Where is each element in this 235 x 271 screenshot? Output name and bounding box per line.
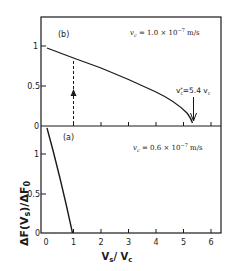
xtick-label-1: 1 xyxy=(71,238,76,247)
xtick-label-4: 4 xyxy=(153,238,158,247)
xtick-label-2: 2 xyxy=(98,238,103,247)
curve-a xyxy=(47,128,73,233)
ytick-a-label-1: 1 xyxy=(34,150,39,159)
panel-a: (a) vc = 0.6 × 10−7 m/s 1 0.5 0 0 1 2 3 … xyxy=(27,128,213,264)
panel-b: (b) vc = 1.0 × 10−7 m/s 1 0.5 0 vc*=5.4 … xyxy=(27,27,211,131)
vc-star-label: vc*=5.4 vc xyxy=(176,86,211,96)
xtick-label-5: 5 xyxy=(181,238,186,247)
ytick-b-label-0.5: 0.5 xyxy=(27,82,40,91)
panel-b-vc-annotation: vc = 1.0 × 10−7 m/s xyxy=(130,27,200,38)
arrow-up-icon xyxy=(71,89,77,96)
y-axis-label: ΔF(Vs)/ΔF0 xyxy=(18,181,32,246)
ytick-a-label-0: 0 xyxy=(35,229,40,238)
ytick-b-label-1: 1 xyxy=(33,42,38,51)
plot-frame xyxy=(41,17,221,233)
panel-a-vc-annotation: vc = 0.6 × 10−7 m/s xyxy=(133,142,203,153)
xtick-label-3: 3 xyxy=(126,238,131,247)
x-axis-label: Vs/ Vc xyxy=(102,251,133,264)
xtick-label-0: 0 xyxy=(43,238,48,247)
xtick-label-6: 6 xyxy=(208,238,213,247)
panel-a-label: (a) xyxy=(63,133,74,142)
panel-b-label: (b) xyxy=(58,30,69,39)
curve-b xyxy=(47,48,193,123)
chart-figure: (b) vc = 1.0 × 10−7 m/s 1 0.5 0 vc*=5.4 … xyxy=(0,0,235,271)
ytick-b-label-0: 0 xyxy=(34,122,39,131)
